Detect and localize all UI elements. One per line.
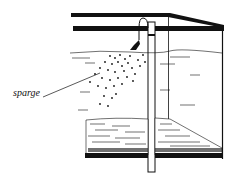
sparge-label: sparge xyxy=(13,87,40,98)
spray-droplets xyxy=(89,54,146,107)
sparge-leader-line xyxy=(43,73,100,97)
water-surface xyxy=(70,50,222,110)
